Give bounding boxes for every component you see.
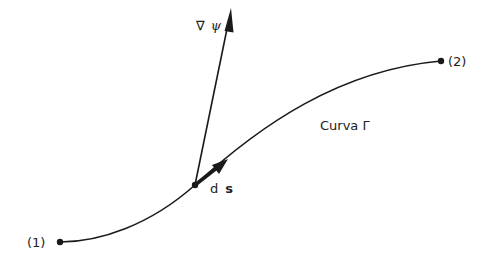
ds-label: d s — [210, 179, 233, 196]
gradient-label: ∇ ψ — [195, 16, 222, 33]
psi-symbol: ψ — [211, 18, 222, 33]
point-mid-dot — [192, 182, 198, 188]
point-2-dot — [438, 58, 444, 64]
gradient-arrowhead-icon — [225, 8, 234, 33]
point-1-label: (1) — [27, 235, 45, 250]
nabla-symbol: ∇ — [195, 18, 205, 33]
ds-d: d — [210, 181, 218, 196]
curve-gamma — [60, 61, 441, 242]
curve-label: Curva Γ — [320, 118, 370, 133]
point-1-dot — [57, 239, 63, 245]
diagram-canvas: (1) (2) Curva Γ ∇ ψ d s — [0, 0, 486, 265]
ds-s: s — [225, 181, 233, 196]
point-2-label: (2) — [448, 54, 466, 69]
